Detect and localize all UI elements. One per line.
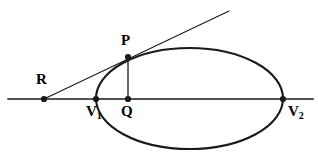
tangent-line bbox=[44, 11, 229, 99]
point-label-p: P bbox=[121, 33, 130, 48]
point-label-v2-base: V bbox=[288, 103, 299, 119]
point-label-v1-subscript: 1 bbox=[97, 110, 102, 121]
point-v1-marker bbox=[93, 96, 99, 102]
point-label-q: Q bbox=[121, 104, 133, 119]
point-label-q-text: Q bbox=[121, 103, 133, 119]
point-label-r: R bbox=[36, 72, 47, 87]
point-label-v2: V2 bbox=[288, 104, 304, 121]
point-r-marker bbox=[41, 96, 47, 102]
point-label-p-text: P bbox=[121, 32, 130, 48]
point-p-marker bbox=[125, 54, 131, 60]
diagram-canvas bbox=[0, 0, 318, 154]
point-label-r-text: R bbox=[36, 71, 47, 87]
ellipse-tangent-diagram: R P Q V1 V2 bbox=[0, 0, 318, 154]
point-label-v1: V1 bbox=[86, 104, 102, 121]
point-label-v1-base: V bbox=[86, 103, 97, 119]
point-q-marker bbox=[125, 96, 131, 102]
point-label-v2-subscript: 2 bbox=[299, 110, 304, 121]
point-v2-marker bbox=[280, 96, 286, 102]
